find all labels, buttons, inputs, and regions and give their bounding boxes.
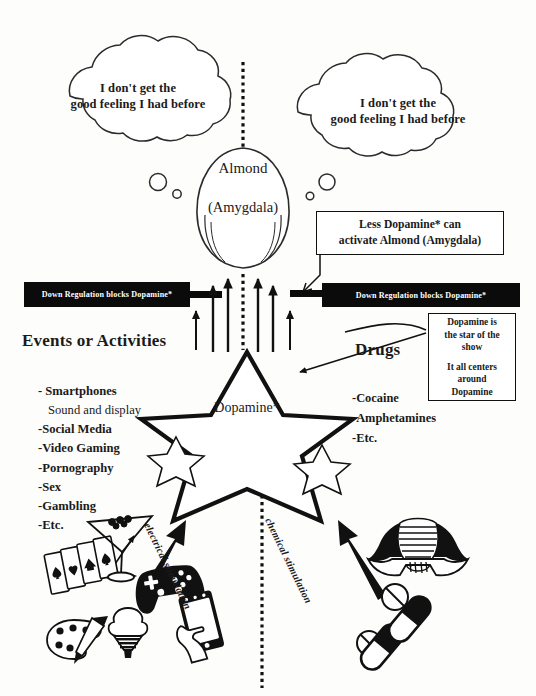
diagram-canvas: I don't get the good feeling I had befor… <box>0 0 536 696</box>
list-item: -Etc. <box>38 516 141 535</box>
list-item: - Smartphones <box>38 382 141 401</box>
callout-line1: Less Dopamine* can <box>359 217 461 233</box>
drugs-heading: Drugs <box>355 340 400 360</box>
icon-ice-cream-cone <box>109 608 148 658</box>
star-box-line1: Dopamine is <box>447 316 497 329</box>
dopamine-star-of-the-show-box: Dopamine is the star of the show It all … <box>428 313 516 401</box>
dopamine-star <box>141 352 353 521</box>
thought-bubble-left-text: I don't get the good feeling I had befor… <box>38 80 238 112</box>
list-item: -Sex <box>38 478 141 497</box>
list-item: -Etc. <box>352 429 436 449</box>
star-box-line5: around <box>457 373 486 386</box>
icon-paint-palette <box>47 616 108 664</box>
thought-bubble-right-line1: I don't get the <box>298 95 498 111</box>
drugs-heading-connector <box>345 324 426 332</box>
callout-connector-arrow <box>303 253 320 292</box>
dopamine-star-label: Dopamine* <box>197 400 297 416</box>
list-item: -Pornography <box>38 459 141 478</box>
down-regulation-bar-right: Down Regulation blocks Dopamine* <box>322 283 520 307</box>
almond-label: Almond <box>193 160 293 177</box>
star-box-line3: show <box>462 341 482 354</box>
list-item: -Amphetamines <box>352 409 436 429</box>
thought-bubble-right-text: I don't get the good feeling I had befor… <box>298 95 498 127</box>
thought-bubble-left-line1: I don't get the <box>38 80 238 96</box>
icon-round-tablet-upper <box>382 584 408 610</box>
less-dopamine-callout: Less Dopamine* can activate Almond (Amyg… <box>316 211 504 255</box>
icon-playing-cards <box>43 536 120 594</box>
thought-bubble-right-dot-small <box>306 192 314 200</box>
icon-hand-holding-smartphone <box>168 590 226 665</box>
thought-bubble-right-dot-large <box>319 174 335 190</box>
list-item: -Social Media <box>38 420 141 439</box>
reg-bar-right-stem <box>290 290 324 297</box>
events-or-activities-heading: Events or Activities <box>22 331 166 351</box>
star-box-line2: the star of the <box>444 329 499 342</box>
list-item: -Video Gaming <box>38 439 141 458</box>
thought-bubble-left-line2: good feeling I had before <box>38 96 238 112</box>
star-box-line4: It all centers <box>447 361 497 374</box>
reg-bar-left-stem <box>188 291 222 298</box>
thought-bubble-left-dot-large <box>150 174 167 191</box>
callout-line2: activate Almond (Amygdala) <box>339 233 481 249</box>
down-regulation-bar-left: Down Regulation blocks Dopamine* <box>24 282 190 307</box>
list-item: Sound and display <box>38 401 141 420</box>
list-item: -Gambling <box>38 497 141 516</box>
star-box-line6: Dopamine <box>451 386 492 399</box>
drugs-list: -Cocaine -Amphetamines -Etc. <box>352 389 436 449</box>
list-item: -Cocaine <box>352 389 436 409</box>
almond-sublabel: (Amygdala) <box>188 199 298 216</box>
thought-bubble-right-line2: good feeling I had before <box>298 111 498 127</box>
thought-bubble-left-dot-small <box>173 190 181 198</box>
events-or-activities-list: - Smartphones Sound and display -Social … <box>38 382 141 535</box>
icon-person-head-down <box>368 519 468 576</box>
